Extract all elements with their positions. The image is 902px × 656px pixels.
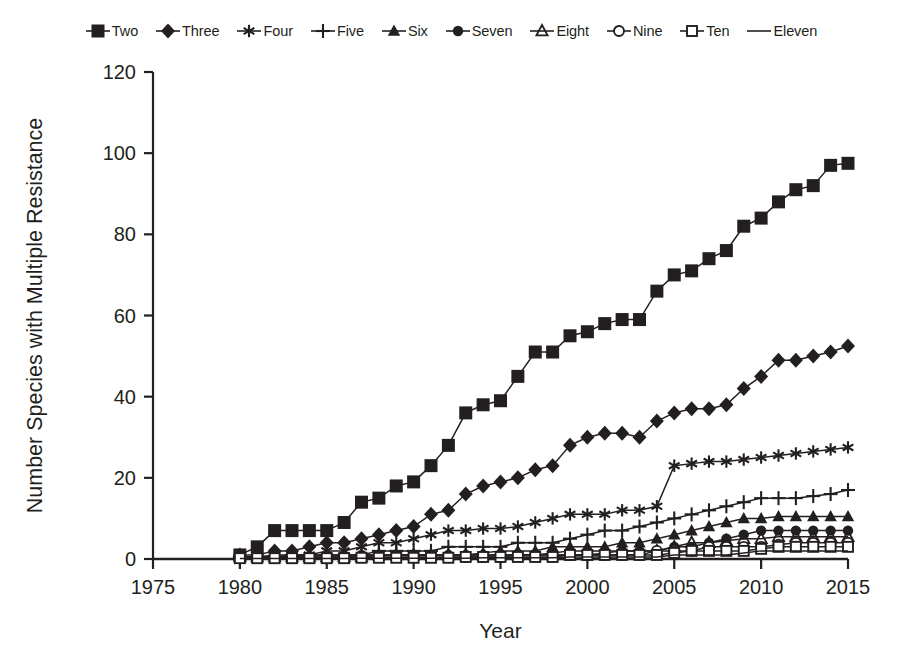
marker-filled-square <box>442 439 455 452</box>
marker-filled-square <box>407 475 420 488</box>
marker-open-square <box>739 546 749 556</box>
marker-open-square <box>530 552 540 562</box>
marker-filled-square <box>789 183 802 196</box>
x-tick-label: 1985 <box>305 576 350 598</box>
marker-open-square <box>669 548 679 558</box>
marker-filled-square <box>685 264 698 277</box>
marker-filled-square <box>616 313 629 326</box>
marker-filled-diamond <box>667 405 681 420</box>
marker-filled-square <box>511 370 524 383</box>
marker-filled-square <box>355 496 368 509</box>
y-tick-label: 40 <box>114 386 136 408</box>
axes <box>144 72 848 569</box>
marker-filled-square <box>772 195 785 208</box>
marker-open-square <box>617 550 627 560</box>
x-tick-label: 1995 <box>478 576 523 598</box>
marker-filled-triangle <box>824 510 836 521</box>
marker-filled-square <box>581 325 594 338</box>
marker-filled-square <box>338 516 351 529</box>
marker-filled-diamond <box>424 507 438 522</box>
marker-filled-diamond <box>476 478 490 493</box>
x-tick-label: 2000 <box>565 576 610 598</box>
x-tick-label: 1975 <box>131 576 176 598</box>
x-axis-title: Year <box>479 619 521 642</box>
marker-filled-square <box>390 479 403 492</box>
marker-filled-triangle <box>772 510 784 521</box>
y-tick-label: 60 <box>114 305 136 327</box>
marker-filled-triangle <box>842 510 854 521</box>
y-tick-label: 100 <box>103 142 136 164</box>
marker-open-square <box>756 544 766 554</box>
marker-filled-square <box>668 268 681 281</box>
marker-open-square <box>478 552 488 562</box>
chart-plot-area: 0204060801001201975198019851990199520002… <box>0 0 902 656</box>
marker-filled-square <box>703 252 716 265</box>
marker-filled-diamond <box>806 349 820 364</box>
marker-filled-diamond <box>841 338 855 353</box>
marker-filled-diamond <box>789 353 803 368</box>
marker-filled-square <box>459 406 472 419</box>
marker-filled-square <box>842 157 855 170</box>
marker-filled-square <box>564 329 577 342</box>
marker-filled-square <box>807 179 820 192</box>
marker-filled-square <box>477 398 490 411</box>
marker-open-square <box>565 550 575 560</box>
marker-open-square <box>635 550 645 560</box>
marker-filled-triangle <box>807 510 819 521</box>
marker-filled-diamond <box>528 462 542 477</box>
marker-filled-diamond <box>389 523 403 538</box>
marker-open-square <box>461 552 471 562</box>
marker-filled-diamond <box>407 519 421 534</box>
marker-filled-diamond <box>615 426 629 441</box>
chart-figure: TwoThreeFourFiveSixSevenEightNineTenElev… <box>0 0 902 656</box>
marker-filled-square <box>425 459 438 472</box>
marker-open-square <box>582 550 592 560</box>
marker-filled-square <box>372 492 385 505</box>
y-tick-label: 0 <box>125 548 136 570</box>
marker-filled-diamond <box>598 426 612 441</box>
marker-filled-square <box>320 524 333 537</box>
x-tick-label: 2010 <box>739 576 784 598</box>
marker-filled-diamond <box>702 401 716 416</box>
marker-filled-square <box>494 394 507 407</box>
marker-filled-triangle <box>790 510 802 521</box>
marker-filled-square <box>303 524 316 537</box>
marker-filled-square <box>529 346 542 359</box>
marker-open-square <box>513 552 523 562</box>
marker-open-square <box>600 550 610 560</box>
marker-filled-square <box>720 244 733 257</box>
marker-filled-diamond <box>824 345 838 360</box>
marker-open-square <box>496 552 506 562</box>
marker-filled-square <box>824 159 837 172</box>
marker-filled-diamond <box>685 401 699 416</box>
x-tick-label: 1980 <box>218 576 263 598</box>
marker-filled-triangle <box>738 512 750 523</box>
marker-filled-diamond <box>511 470 525 485</box>
y-axis-title: Number Species with Multiple Resistance <box>23 118 47 514</box>
marker-filled-square <box>268 524 281 537</box>
marker-filled-square <box>546 346 559 359</box>
y-tick-label: 20 <box>114 467 136 489</box>
marker-filled-square <box>737 220 750 233</box>
marker-open-square <box>652 550 662 560</box>
marker-filled-square <box>286 524 299 537</box>
x-tick-label: 1990 <box>391 576 436 598</box>
y-tick-label: 80 <box>114 223 136 245</box>
marker-filled-square <box>755 212 768 225</box>
marker-filled-diamond <box>580 430 594 445</box>
x-tick-label: 2005 <box>652 576 697 598</box>
marker-filled-square <box>633 313 646 326</box>
marker-filled-diamond <box>494 474 508 489</box>
y-tick-label: 120 <box>103 61 136 83</box>
marker-filled-square <box>598 317 611 330</box>
x-tick-label: 2015 <box>826 576 871 598</box>
marker-filled-square <box>650 285 663 298</box>
data-series-group <box>233 157 855 564</box>
